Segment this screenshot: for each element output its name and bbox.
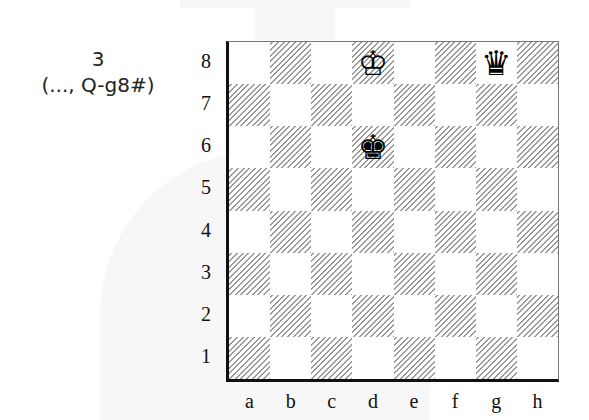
file-label-h: h: [527, 390, 547, 413]
square-g2[interactable]: [476, 295, 517, 337]
square-a3[interactable]: [229, 253, 270, 295]
square-d2[interactable]: [352, 295, 393, 337]
square-f1[interactable]: [435, 337, 476, 379]
square-e3[interactable]: [394, 253, 435, 295]
rank-label-4: 4: [196, 219, 216, 242]
square-g6[interactable]: [476, 126, 517, 168]
square-a8[interactable]: [229, 42, 270, 84]
square-e5[interactable]: [394, 168, 435, 210]
black-queen-icon[interactable]: ♛: [481, 46, 511, 80]
move-number: 3: [0, 46, 196, 72]
watermark: [255, 0, 335, 40]
square-d3[interactable]: [352, 253, 393, 295]
rank-label-5: 5: [196, 176, 216, 199]
square-b6[interactable]: [270, 126, 311, 168]
square-e2[interactable]: [394, 295, 435, 337]
file-label-e: e: [404, 390, 424, 413]
rank-label-7: 7: [196, 92, 216, 115]
black-king-icon[interactable]: ♚: [358, 130, 388, 164]
square-h3[interactable]: [517, 253, 558, 295]
square-c3[interactable]: [311, 253, 352, 295]
square-a6[interactable]: [229, 126, 270, 168]
file-label-c: c: [322, 390, 342, 413]
file-label-f: f: [445, 390, 465, 413]
rank-label-1: 1: [196, 345, 216, 368]
square-a4[interactable]: [229, 211, 270, 253]
square-h8[interactable]: [517, 42, 558, 84]
square-e1[interactable]: [394, 337, 435, 379]
square-h6[interactable]: [517, 126, 558, 168]
square-g1[interactable]: [476, 337, 517, 379]
square-f3[interactable]: [435, 253, 476, 295]
square-b2[interactable]: [270, 295, 311, 337]
move-notation: (..., Q-g8#): [0, 72, 196, 98]
rank-label-6: 6: [196, 134, 216, 157]
square-a5[interactable]: [229, 168, 270, 210]
square-f7[interactable]: [435, 84, 476, 126]
square-b3[interactable]: [270, 253, 311, 295]
square-d7[interactable]: [352, 84, 393, 126]
square-f5[interactable]: [435, 168, 476, 210]
square-e7[interactable]: [394, 84, 435, 126]
square-h2[interactable]: [517, 295, 558, 337]
square-f6[interactable]: [435, 126, 476, 168]
square-f4[interactable]: [435, 211, 476, 253]
square-c7[interactable]: [311, 84, 352, 126]
square-g3[interactable]: [476, 253, 517, 295]
square-b1[interactable]: [270, 337, 311, 379]
diagram-caption: 3 (..., Q-g8#): [0, 46, 196, 98]
rank-label-3: 3: [196, 261, 216, 284]
file-label-a: a: [240, 390, 260, 413]
rank-label-2: 2: [196, 303, 216, 326]
square-d1[interactable]: [352, 337, 393, 379]
square-d4[interactable]: [352, 211, 393, 253]
square-h5[interactable]: [517, 168, 558, 210]
square-b5[interactable]: [270, 168, 311, 210]
square-b7[interactable]: [270, 84, 311, 126]
square-f8[interactable]: [435, 42, 476, 84]
square-h4[interactable]: [517, 211, 558, 253]
square-c5[interactable]: [311, 168, 352, 210]
square-c8[interactable]: [311, 42, 352, 84]
square-d5[interactable]: [352, 168, 393, 210]
square-g5[interactable]: [476, 168, 517, 210]
square-h1[interactable]: [517, 337, 558, 379]
rank-label-8: 8: [196, 50, 216, 73]
square-a7[interactable]: [229, 84, 270, 126]
square-c6[interactable]: [311, 126, 352, 168]
file-label-d: d: [363, 390, 383, 413]
square-e8[interactable]: [394, 42, 435, 84]
square-c2[interactable]: [311, 295, 352, 337]
square-h7[interactable]: [517, 84, 558, 126]
square-b8[interactable]: [270, 42, 311, 84]
square-d6[interactable]: ♚: [352, 126, 393, 168]
square-e6[interactable]: [394, 126, 435, 168]
square-e4[interactable]: [394, 211, 435, 253]
square-g8[interactable]: ♛: [476, 42, 517, 84]
white-king-icon[interactable]: ♔: [358, 46, 388, 80]
watermark: [180, 0, 410, 8]
square-f2[interactable]: [435, 295, 476, 337]
square-c4[interactable]: [311, 211, 352, 253]
chess-board: ♔♛♚: [226, 41, 559, 382]
square-c1[interactable]: [311, 337, 352, 379]
file-label-b: b: [281, 390, 301, 413]
file-label-g: g: [486, 390, 506, 413]
square-b4[interactable]: [270, 211, 311, 253]
square-g7[interactable]: [476, 84, 517, 126]
square-a1[interactable]: [229, 337, 270, 379]
square-g4[interactable]: [476, 211, 517, 253]
square-a2[interactable]: [229, 295, 270, 337]
square-d8[interactable]: ♔: [352, 42, 393, 84]
